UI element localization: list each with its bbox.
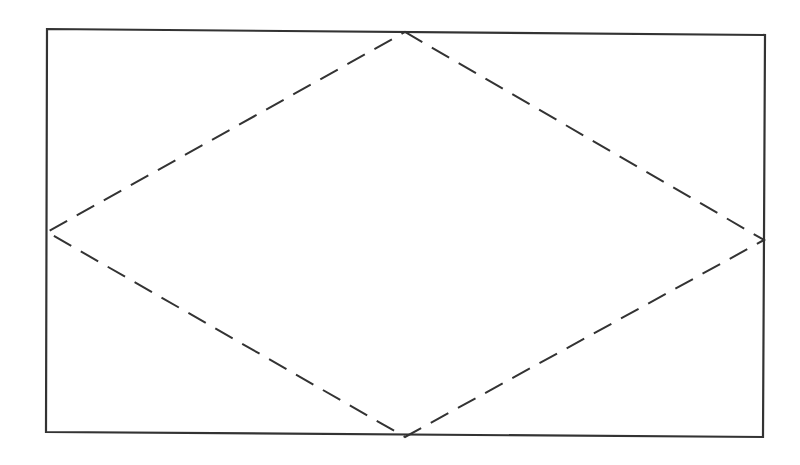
diagram-canvas (0, 0, 800, 465)
outer-rectangle (46, 29, 765, 437)
inscribed-dashed-rhombus (47, 32, 764, 437)
